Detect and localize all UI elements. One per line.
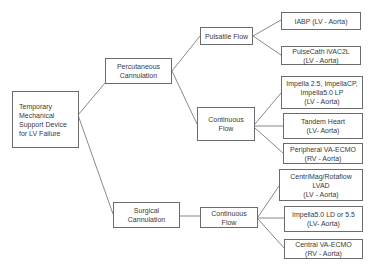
leaf-pulsecath: PulseCath iVAC2L (LV - Aorta)	[281, 46, 361, 65]
leaf-pulsecath-label: PulseCath iVAC2L (LV - Aorta)	[292, 47, 349, 65]
continuous-flow-percutaneous-label: Continuous Flow	[200, 115, 252, 133]
leaf-impella-5-ld: Impella5.0 LD or 5.5 (LV- Aorta)	[284, 206, 363, 232]
root-node-label: Temporary Mechanical Support Device for …	[19, 102, 67, 138]
leaf-centrimag-label: CentriMag/Rotaflow LVAD (LV - Aorta)	[290, 172, 351, 199]
leaf-tandem-heart: Tandem Heart (LV- Aorta)	[283, 113, 363, 139]
leaf-impella: Impella 2.5, ImpellaCP, Impella5.0 LP (L…	[281, 76, 363, 109]
leaf-iabp: IABP (LV - Aorta)	[281, 12, 361, 30]
leaf-tandem-heart-label: Tandem Heart (LV- Aorta)	[301, 117, 345, 135]
percutaneous-cannulation-label: Percutaneous Cannulation	[117, 62, 160, 80]
leaf-central-va-ecmo: Central VA-ECMO (RV - Aorta)	[284, 239, 363, 259]
pulsatile-flow-node: Pulsatile Flow	[200, 27, 253, 45]
surgical-cannulation-label: Surgical Cannulation	[128, 206, 165, 224]
leaf-impella-label: Impella 2.5, ImpellaCP, Impella5.0 LP (L…	[286, 79, 357, 106]
pulsatile-flow-label: Pulsatile Flow	[205, 32, 248, 41]
continuous-flow-surgical-node: Continuous Flow	[200, 207, 258, 228]
leaf-central-va-ecmo-label: Central VA-ECMO (RV - Aorta)	[295, 240, 352, 258]
leaf-peripheral-va-ecmo-label: Peripheral VA-ECMO (RV - Aorta)	[290, 145, 356, 163]
surgical-cannulation-node: Surgical Cannulation	[113, 202, 180, 228]
leaf-centrimag: CentriMag/Rotaflow LVAD (LV - Aorta)	[279, 169, 363, 201]
continuous-flow-surgical-label: Continuous Flow	[203, 209, 255, 227]
leaf-impella-5-ld-label: Impella5.0 LD or 5.5 (LV- Aorta)	[292, 210, 355, 228]
continuous-flow-percutaneous-node: Continuous Flow	[197, 107, 255, 141]
leaf-iabp-label: IABP (LV - Aorta)	[294, 17, 347, 26]
percutaneous-cannulation-node: Percutaneous Cannulation	[105, 58, 172, 84]
root-node: Temporary Mechanical Support Device for …	[12, 91, 79, 148]
leaf-peripheral-va-ecmo: Peripheral VA-ECMO (RV - Aorta)	[283, 143, 363, 164]
